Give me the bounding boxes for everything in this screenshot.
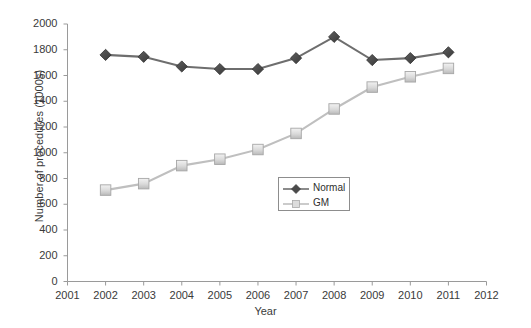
- y-tick-label: 1400: [14, 95, 58, 106]
- y-tick-label: 800: [14, 173, 58, 184]
- y-tick-label: 1200: [14, 121, 58, 132]
- legend-item-gm: GM: [283, 195, 329, 209]
- plot-area: [0, 0, 531, 328]
- legend-swatch-square-icon: [283, 196, 309, 208]
- y-tick-label: 1800: [14, 44, 58, 55]
- legend-label-gm: GM: [313, 197, 329, 208]
- y-tick-label: 2000: [14, 18, 58, 29]
- y-tick-label: 200: [14, 250, 58, 261]
- y-tick-label: 0: [14, 276, 58, 287]
- legend-label-normal: Normal: [313, 182, 345, 193]
- legend-swatch-diamond-icon: [283, 181, 309, 193]
- y-tick-label: 1000: [14, 147, 58, 158]
- legend: Normal GM: [278, 177, 350, 211]
- y-tick-label: 600: [14, 198, 58, 209]
- x-axis-title: Year: [0, 305, 531, 317]
- series-gm: [100, 63, 453, 195]
- x-tick-label: 2012: [465, 290, 509, 301]
- series-normal: [100, 31, 454, 74]
- legend-item-normal: Normal: [283, 180, 345, 194]
- y-tick-label: 400: [14, 224, 58, 235]
- chart-container: Number of procedures (1000s) 02004006008…: [0, 0, 531, 328]
- y-tick-label: 1600: [14, 70, 58, 81]
